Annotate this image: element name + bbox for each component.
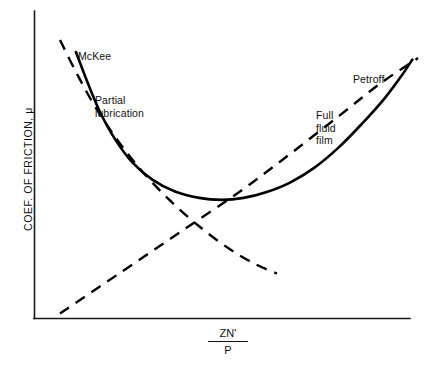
annotation-mckee: McKee bbox=[78, 50, 111, 63]
x-axis-label-numerator: ZN' bbox=[196, 327, 260, 341]
friction-curve-figure: McKee Partial lubrication Petroff Full f… bbox=[0, 0, 434, 367]
x-axis-label-denominator: P bbox=[196, 342, 260, 357]
chart-canvas bbox=[0, 0, 434, 367]
y-axis-label: COEF. OF FRICTION, μ bbox=[22, 94, 34, 244]
annotation-petroff: Petroff bbox=[353, 73, 384, 86]
annotation-full-fluid-film: Full fluid film bbox=[316, 109, 336, 147]
annotation-partial-lubrication: Partial lubrication bbox=[95, 94, 144, 119]
curve-mask-2 bbox=[0, 0, 434, 367]
x-axis-label: ZN' P bbox=[196, 327, 260, 357]
